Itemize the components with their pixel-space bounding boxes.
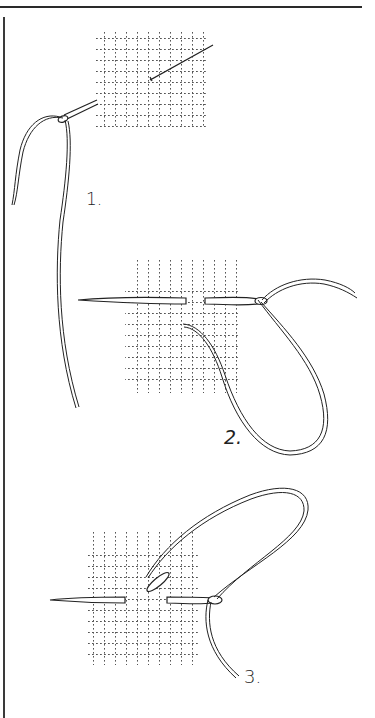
canvas-grid-2 [125, 258, 240, 393]
needle-3-left-icon [50, 597, 125, 603]
step-2-group [78, 258, 357, 455]
step-3-group [50, 488, 308, 678]
thread-1 [12, 116, 79, 408]
illustration-page: 1. 2. 3. [0, 0, 375, 718]
step-2-label: 2. [224, 426, 242, 448]
canvas-grid-1 [94, 30, 206, 128]
needle-2-right-icon [205, 297, 267, 304]
step-3-label: 3. [244, 666, 261, 687]
needle-3-right-icon [167, 596, 222, 604]
step-1-label: 1. [86, 189, 102, 209]
needle-2-left-icon [78, 297, 186, 304]
needle-1-eye-icon [57, 100, 98, 124]
stitch-illustration [0, 0, 375, 718]
